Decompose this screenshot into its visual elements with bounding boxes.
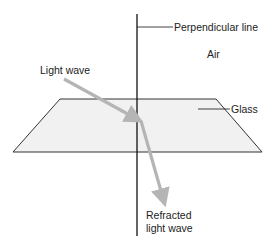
glass-label: Glass — [231, 103, 258, 115]
refraction-diagram — [0, 0, 277, 247]
light-wave-label: Light wave — [40, 64, 90, 76]
refracted-label-line1: Refracted — [146, 209, 192, 221]
refracted-label-line2: light wave — [146, 222, 193, 234]
air-label: Air — [207, 48, 220, 60]
perpendicular-line-label: Perpendicular line — [174, 21, 258, 33]
